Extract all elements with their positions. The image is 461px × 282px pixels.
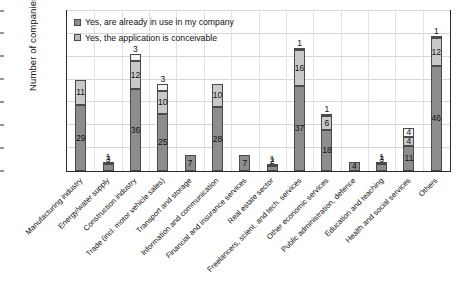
chart-legend: Yes, are already in use in my company Ye… <box>74 16 234 47</box>
bar-segment[interactable]: 4 <box>403 128 414 137</box>
y-axis-tick-mark <box>0 10 4 11</box>
bar-segment[interactable]: 7 <box>185 155 196 171</box>
bar-group[interactable]: 2911 <box>75 80 86 171</box>
series-1-swatch-icon <box>74 34 81 41</box>
bar-segment[interactable]: 1 <box>294 48 305 50</box>
bar-value-label: 6 <box>325 119 330 128</box>
bar-value-label: 36 <box>131 126 140 135</box>
bar-value-label: 28 <box>213 135 222 144</box>
series-0-swatch-icon <box>74 19 81 26</box>
bar-segment[interactable]: 3 <box>130 54 141 61</box>
bar-segment[interactable]: 18 <box>321 130 332 171</box>
bar-group[interactable]: 1144 <box>403 128 414 171</box>
bar-group[interactable]: 1861 <box>321 114 332 171</box>
bar-value-label: 10 <box>213 91 222 100</box>
bar-group[interactable]: 21 <box>267 164 278 171</box>
bar-group[interactable]: 7 <box>239 155 250 171</box>
bar-segment[interactable]: 1 <box>431 36 442 38</box>
bar-segment[interactable]: 10 <box>157 91 168 114</box>
bar-value-label: 1 <box>297 39 302 48</box>
x-axis-label: Others <box>417 176 439 198</box>
bar-value-label: 7 <box>242 159 247 168</box>
bar-value-label: 10 <box>158 98 167 107</box>
bar-segment[interactable]: 2 <box>267 166 278 171</box>
bar-segment[interactable]: 29 <box>75 105 86 171</box>
bar-value-label: 4 <box>352 162 357 171</box>
bar-segment[interactable]: 1 <box>321 114 332 116</box>
bar-segment[interactable]: 4 <box>349 162 360 171</box>
y-axis-tick-mark <box>0 101 4 102</box>
y-axis-tick-mark <box>0 79 4 80</box>
bar-value-label: 4 <box>407 128 412 137</box>
bar-value-label: 16 <box>295 64 304 73</box>
bar-segment[interactable]: 36 <box>130 89 141 171</box>
y-axis-tick-mark <box>0 147 4 148</box>
bar-group[interactable]: 4 <box>349 162 360 171</box>
bar-value-label: 25 <box>158 138 167 147</box>
bar-segment[interactable]: 12 <box>431 38 442 65</box>
bar-value-label: 3 <box>133 45 138 54</box>
bar-value-label: 11 <box>405 154 414 163</box>
bar-segment[interactable]: 3 <box>157 84 168 91</box>
bar-segment[interactable]: 11 <box>403 146 414 171</box>
bar-value-label: 12 <box>432 48 441 57</box>
bar-segment[interactable]: 4 <box>403 137 414 146</box>
bar-value-label: 12 <box>131 71 140 80</box>
bar-group[interactable]: 37161 <box>294 48 305 171</box>
bar-value-label: 18 <box>322 146 331 155</box>
bar-segment[interactable]: 3 <box>376 164 387 171</box>
bar-segment[interactable]: 10 <box>212 84 223 107</box>
bar-segment[interactable]: 6 <box>321 116 332 130</box>
bar-value-label: 29 <box>76 134 85 143</box>
bar-value-label: 3 <box>160 75 165 84</box>
legend-label-1: Yes, the application is conceivable <box>85 32 217 45</box>
bar-value-label: 1 <box>379 153 384 162</box>
bar-group[interactable]: 46121 <box>431 36 442 171</box>
bar-value-label: 4 <box>407 137 412 146</box>
x-axis-labels: Manufacturing industryEnergy/water suppl… <box>66 174 451 282</box>
bar-value-label: 1 <box>106 153 111 162</box>
bar-value-label: 1 <box>325 105 330 114</box>
bar-group[interactable]: 7 <box>185 155 196 171</box>
y-axis-tick-mark <box>0 33 4 34</box>
bar-value-label: 7 <box>188 159 193 168</box>
bar-value-label: 37 <box>295 124 304 133</box>
bar-segment[interactable]: 3 <box>103 164 114 171</box>
bar-segment[interactable]: 11 <box>75 80 86 105</box>
y-axis-title: Number of companies <box>27 0 38 124</box>
bar-group[interactable]: 31 <box>376 162 387 171</box>
legend-item-0: Yes, are already in use in my company <box>74 16 234 29</box>
chart-root: Number of companies 29113136123251037281… <box>0 0 461 282</box>
bar-segment[interactable]: 16 <box>294 50 305 87</box>
bar-group[interactable]: 2810 <box>212 84 223 171</box>
y-axis-tick-mark <box>0 56 4 57</box>
bar-value-label: 1 <box>270 155 275 164</box>
bar-segment[interactable]: 28 <box>212 107 223 171</box>
bar-segment[interactable]: 12 <box>130 61 141 88</box>
bar-segment[interactable]: 37 <box>294 86 305 171</box>
bar-value-label: 11 <box>76 88 85 97</box>
bar-segment[interactable]: 7 <box>239 155 250 171</box>
bar-segment[interactable]: 46 <box>431 66 442 171</box>
bar-group[interactable]: 31 <box>103 162 114 171</box>
bar-value-label: 1 <box>434 27 439 36</box>
legend-item-1: Yes, the application is conceivable <box>74 32 234 45</box>
bar-group[interactable]: 36123 <box>130 54 141 171</box>
bar-value-label: 46 <box>432 114 441 123</box>
bar-segment[interactable]: 25 <box>157 114 168 171</box>
y-axis-tick-mark <box>0 124 4 125</box>
legend-label-0: Yes, are already in use in my company <box>85 16 234 29</box>
y-axis-tick-mark <box>0 170 4 171</box>
bar-group[interactable]: 25103 <box>157 84 168 171</box>
